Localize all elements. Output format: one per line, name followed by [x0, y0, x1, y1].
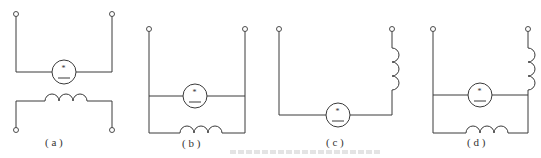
field-coil-icon — [466, 126, 508, 133]
svg-text:*: * — [478, 87, 482, 96]
terminal-icon — [431, 27, 436, 32]
field-coil-icon — [392, 48, 399, 90]
figure-caption-cropped — [230, 150, 380, 154]
terminal-icon — [14, 128, 19, 133]
panel-c-diagram: * — [277, 27, 400, 128]
dc-motor-connection-diagrams: * * * * — [0, 0, 541, 158]
panel-c-label: ( c ) — [326, 136, 344, 148]
field-coil-icon — [528, 48, 535, 90]
terminal-icon — [14, 12, 19, 17]
terminal-icon — [390, 27, 395, 32]
panel-b-diagram: * — [147, 27, 248, 134]
terminal-icon — [243, 27, 248, 32]
panel-a-diagram: * — [14, 12, 115, 133]
svg-text:*: * — [62, 64, 66, 73]
terminal-icon — [110, 128, 115, 133]
panel-d-label: ( d ) — [467, 136, 485, 148]
svg-text:*: * — [336, 107, 340, 116]
panel-d-diagram: * — [431, 27, 536, 134]
terminal-icon — [526, 27, 531, 32]
panel-a-label: ( a ) — [45, 136, 63, 148]
field-coil-icon — [180, 126, 222, 133]
field-coil-icon — [45, 94, 87, 101]
panel-b-label: ( b ) — [182, 137, 200, 149]
svg-text:*: * — [193, 88, 197, 97]
terminal-icon — [110, 12, 115, 17]
terminal-icon — [277, 27, 282, 32]
terminal-icon — [147, 27, 152, 32]
